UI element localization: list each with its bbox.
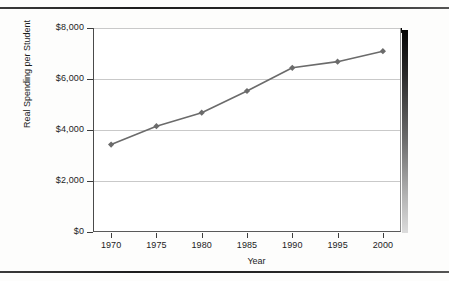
x-tick-1990 [292, 233, 293, 238]
series-spending-per-student [93, 28, 401, 232]
data-point-1990 [289, 65, 295, 71]
data-point-1995 [334, 59, 340, 65]
x-tick-label-2000: 2000 [373, 240, 393, 250]
x-tick-1980 [202, 233, 203, 238]
data-point-1975 [153, 123, 159, 129]
x-axis-title-text: Year [183, 256, 265, 266]
x-tick-1985 [247, 233, 248, 238]
x-tick-1995 [338, 233, 339, 238]
y-tick-label-4000: $4,000 [56, 125, 84, 134]
y-tick-label-2000: $2,000 [56, 176, 84, 185]
y-tick-0 [87, 232, 93, 233]
y-axis-title: Real Spending per Student [22, 0, 32, 149]
x-tick-label-1970: 1970 [101, 240, 121, 250]
line-chart-figure: $0$2,000$4,000$6,000$8,000 1970197519801… [0, 9, 449, 271]
scanned-page: $0$2,000$4,000$6,000$8,000 1970197519801… [0, 0, 449, 281]
y-tick-label-6000: $6,000 [56, 74, 84, 83]
data-point-1970 [108, 141, 114, 147]
x-tick-label-1995: 1995 [327, 240, 347, 250]
x-tick-label-1985: 1985 [237, 240, 257, 250]
page-rule-bottom [0, 271, 449, 273]
x-tick-1970 [111, 233, 112, 238]
data-point-1985 [244, 88, 250, 94]
y-tick-label-8000: $8,000 [56, 23, 84, 32]
x-tick-label-1980: 1980 [191, 240, 211, 250]
data-point-2000 [380, 48, 386, 54]
x-tick-1975 [156, 233, 157, 238]
series-markers [108, 48, 386, 148]
chart-right-shadow [402, 30, 408, 233]
x-tick-label-1990: 1990 [282, 240, 302, 250]
x-axis-title: Year [0, 256, 449, 266]
x-tick-2000 [383, 233, 384, 238]
x-tick-label-1975: 1975 [146, 240, 166, 250]
series-line [111, 51, 383, 144]
data-point-1980 [199, 110, 205, 116]
y-tick-label-0: $0 [74, 227, 84, 236]
